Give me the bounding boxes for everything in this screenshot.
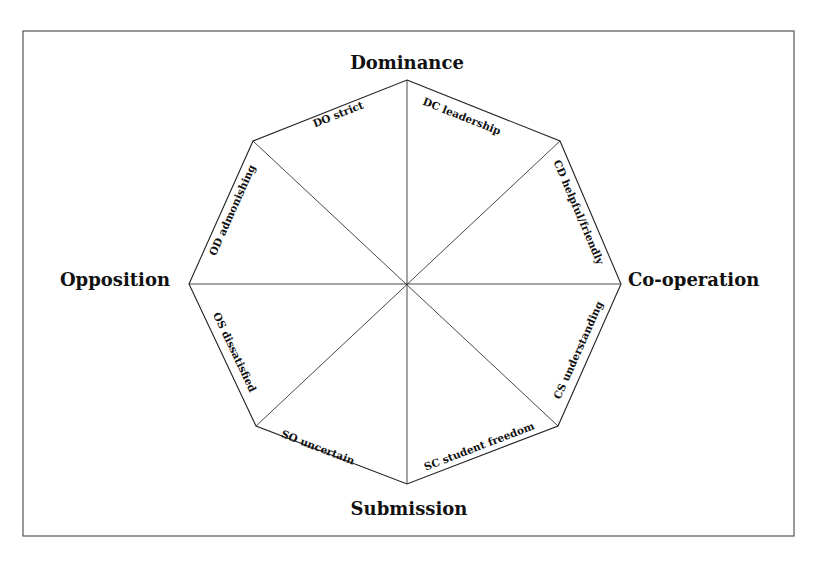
sector-label-sc: SC student freedom — [422, 419, 536, 472]
interpersonal-behaviour-model: Dominance Submission Opposition Co-opera… — [0, 0, 819, 563]
sector-label-od: OD admonishing — [206, 162, 257, 257]
axis-label-left: Opposition — [60, 269, 170, 290]
axis-label-bottom: Submission — [351, 498, 468, 519]
sector-label-do: DO strict — [311, 99, 365, 130]
spoke-diagonal-up — [256, 141, 560, 426]
octagon-outline — [189, 80, 621, 484]
sector-label-so: SO uncertain — [280, 428, 357, 467]
axis-label-top: Dominance — [350, 52, 464, 73]
sector-label-cs: CS understanding — [551, 299, 605, 401]
spoke-diagonal-down — [253, 141, 558, 426]
axis-label-right: Co-operation — [628, 269, 759, 290]
sector-label-cd: CD helpful/friendly — [551, 158, 607, 267]
